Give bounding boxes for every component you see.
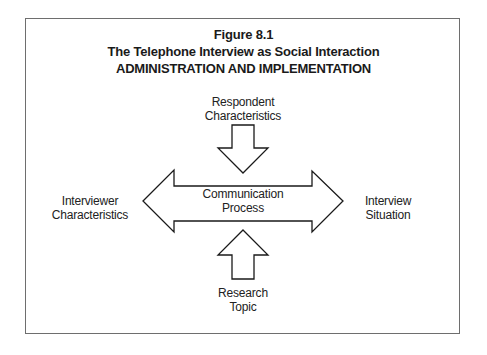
node-label: Respondent <box>193 95 293 109</box>
node-label: Characteristics <box>38 208 142 222</box>
node-label: Interviewer <box>38 194 142 208</box>
node-label: Research <box>203 286 283 300</box>
node-respondent-characteristics: Respondent Characteristics <box>193 95 293 123</box>
node-label: Process <box>193 201 293 215</box>
node-interview-situation: Interview Situation <box>348 194 428 222</box>
node-interviewer-characteristics: Interviewer Characteristics <box>38 194 142 222</box>
node-label: Communication <box>193 187 293 201</box>
up-arrow-icon <box>218 230 268 279</box>
node-label: Topic <box>203 300 283 314</box>
node-label: Characteristics <box>193 109 293 123</box>
node-research-topic: Research Topic <box>203 286 283 314</box>
node-label: Situation <box>348 208 428 222</box>
down-arrow-icon <box>218 125 268 173</box>
node-communication-process: Communication Process <box>193 187 293 215</box>
node-label: Interview <box>348 194 428 208</box>
